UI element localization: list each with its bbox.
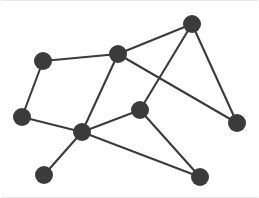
graph-edge xyxy=(118,24,192,54)
graph-node-layer xyxy=(13,15,246,186)
graph-figure xyxy=(0,0,259,198)
graph-node[interactable] xyxy=(35,166,53,184)
graph-node[interactable] xyxy=(191,168,209,186)
graph-edge xyxy=(140,110,200,177)
graph-node[interactable] xyxy=(228,114,246,132)
graph-edge xyxy=(82,132,200,177)
graph-node[interactable] xyxy=(131,101,149,119)
graph-node[interactable] xyxy=(34,52,52,70)
graph-canvas xyxy=(0,0,259,198)
graph-edge xyxy=(192,24,237,123)
graph-edge xyxy=(22,117,82,132)
graph-edge xyxy=(140,24,192,110)
graph-node[interactable] xyxy=(73,123,91,141)
graph-node[interactable] xyxy=(13,108,31,126)
graph-node[interactable] xyxy=(183,15,201,33)
graph-node[interactable] xyxy=(109,45,127,63)
graph-edge-layer xyxy=(22,24,237,177)
graph-edge xyxy=(43,54,118,61)
